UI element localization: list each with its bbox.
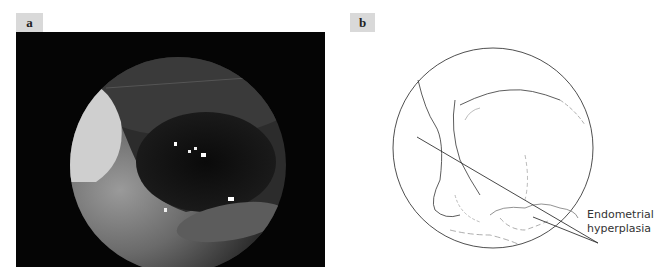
panel-a-label: a [16,13,43,32]
annotation-line-1: Endometrial [587,208,654,222]
annotation-label: Endometrial hyperplasia [587,208,654,236]
schematic-drawing [350,30,655,273]
endoscopic-image [16,32,325,267]
anatomy-line-drawing [350,30,655,273]
annotation-line-2: hyperplasia [587,222,654,236]
hysteroscopy-photo [16,32,325,267]
